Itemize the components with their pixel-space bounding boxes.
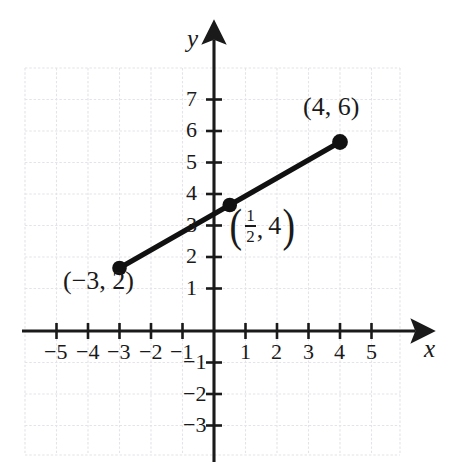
y-axis-name: y: [187, 26, 198, 51]
y-tick-label-2: 2: [186, 245, 197, 267]
y-tick-label-6: 6: [186, 119, 197, 141]
point-label-4-6: (4, 6): [303, 94, 359, 120]
x-tick-label-3: 3: [303, 341, 314, 363]
y-tick-label--2: −2: [183, 383, 206, 405]
close-paren: ): [283, 208, 296, 244]
x-tick-label-2: 2: [271, 341, 282, 363]
coordinate-y-value: 4: [268, 213, 281, 239]
point-label-minus3-2: (−3, 2): [63, 268, 134, 294]
y-tick-label--1: −1: [183, 351, 206, 373]
x-tick-label--4: −4: [76, 341, 99, 363]
x-axis-name: x: [424, 336, 435, 361]
x-tick-label-5: 5: [366, 341, 377, 363]
fraction-denominator: 2: [244, 228, 257, 245]
open-paren: (: [229, 208, 242, 244]
x-tick-label--3: −3: [107, 341, 130, 363]
x-tick-label--5: −5: [44, 341, 67, 363]
y-tick-label-5: 5: [186, 151, 197, 173]
x-tick-label-1: 1: [240, 341, 251, 363]
point-label-half-4: ( 1 2 , 4 ): [228, 207, 297, 245]
y-tick-label-1: 1: [186, 277, 197, 299]
x-tick-label--2: −2: [139, 341, 162, 363]
coordinate-plane-figure: y x −5 −4 −3 −2 −1 1 2 3 4 5 7 6 5 4 3 2…: [0, 0, 459, 475]
y-tick-label-7: 7: [186, 88, 197, 110]
fraction-numerator: 1: [244, 207, 257, 224]
y-tick-label-4: 4: [186, 182, 197, 204]
y-tick-label--3: −3: [183, 414, 206, 436]
x-tick-label-4: 4: [334, 341, 345, 363]
y-tick-label-3: 3: [186, 214, 197, 236]
coordinate-comma: ,: [257, 217, 264, 245]
fraction-one-half: 1 2: [244, 207, 257, 245]
data-point-4-6: [332, 134, 348, 150]
